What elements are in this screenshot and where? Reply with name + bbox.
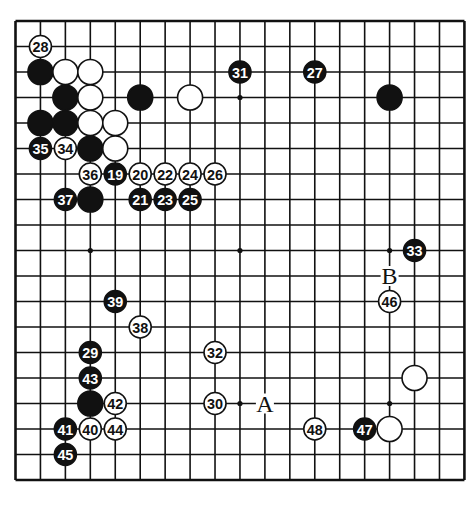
star-point [237,95,242,100]
star-point [387,401,392,406]
stone-number: 34 [57,140,74,157]
stone-circle [178,85,203,110]
black-stone-47: 47 [354,418,376,440]
black-stone-29: 29 [79,342,101,364]
stone-number: 22 [157,166,173,183]
stone-circle [53,85,78,110]
stone-number: 38 [132,319,148,336]
stone-number: 43 [82,370,98,387]
stone-number: 20 [132,166,148,183]
stone-number: 33 [407,242,423,259]
black-stone-39: 39 [104,291,126,313]
stone-circle [28,60,53,85]
marker-a: A [256,391,274,417]
black-stone-27: 27 [304,61,326,83]
black-stone [128,85,153,110]
stone-circle [78,391,103,416]
white-stone-44: 44 [104,418,126,440]
black-stone [53,85,78,110]
stone-number: 37 [57,191,73,208]
black-stone [377,85,402,110]
black-stone-31: 31 [229,61,251,83]
stone-circle [78,111,103,136]
stone-number: 27 [307,64,323,81]
stone-circle [377,85,402,110]
black-stone-35: 35 [29,138,51,160]
stone-number: 40 [82,421,98,438]
black-stone [78,391,103,416]
stone-number: 29 [82,344,98,361]
black-stone-25: 25 [179,189,201,211]
white-stone [103,136,128,161]
white-stone [53,60,78,85]
white-stone-48: 48 [304,418,326,440]
stone-circle [53,60,78,85]
stone-number: 39 [107,293,123,310]
white-stone-22: 22 [154,163,176,185]
star-point [88,248,93,253]
go-board-diagram: AB 2831273534361920222426372123253346393… [0,0,476,509]
black-stone [28,60,53,85]
black-stone-37: 37 [54,189,76,211]
stone-circle [377,417,402,442]
white-stone [78,111,103,136]
stone-number: 31 [232,64,248,81]
stone-number: 25 [182,191,198,208]
stone-number: 23 [157,191,173,208]
white-stone-36: 36 [79,163,101,185]
stone-circle [78,60,103,85]
white-stone [402,366,427,391]
stone-circle [402,366,427,391]
marker-label: A [256,391,274,417]
stone-number: 19 [107,166,123,183]
stone-number: 21 [132,191,148,208]
stone-circle [78,187,103,212]
stone-circle [128,85,153,110]
stone-number: 24 [182,166,199,183]
star-point [237,248,242,253]
white-stone-28: 28 [29,36,51,58]
white-stone-20: 20 [129,163,151,185]
stone-circle [53,111,78,136]
black-stone-21: 21 [129,189,151,211]
black-stone [28,111,53,136]
stone-number: 47 [357,421,373,438]
stone-circle [78,136,103,161]
go-board: AB 2831273534361920222426372123253346393… [0,0,476,509]
white-stone-42: 42 [104,393,126,415]
stone-circle [103,136,128,161]
white-stone-34: 34 [54,138,76,160]
stone-number: 42 [107,395,123,412]
white-stone [178,85,203,110]
black-stone-19: 19 [104,163,126,185]
white-stone-24: 24 [179,163,201,185]
stone-number: 30 [207,395,223,412]
star-point [387,248,392,253]
stone-number: 46 [382,293,398,310]
stone-number: 28 [32,38,48,55]
black-stone [78,187,103,212]
black-stone [78,136,103,161]
stone-number: 32 [207,344,223,361]
black-stone-43: 43 [79,367,101,389]
black-stone-23: 23 [154,189,176,211]
white-stone [78,85,103,110]
stone-number: 45 [57,446,73,463]
stone-number: 41 [57,421,73,438]
white-stone-38: 38 [129,316,151,338]
stone-number: 44 [107,421,124,438]
marker-b: B [381,263,399,289]
stone-circle [103,111,128,136]
white-stone-46: 46 [379,291,401,313]
stone-circle [28,111,53,136]
black-stone-45: 45 [54,444,76,466]
stone-circle [78,85,103,110]
marker-label: B [382,263,398,289]
white-stone-32: 32 [204,342,226,364]
white-stone [78,60,103,85]
white-stone-40: 40 [79,418,101,440]
stone-number: 48 [307,421,323,438]
white-stone-30: 30 [204,393,226,415]
white-stone-26: 26 [204,163,226,185]
stone-number: 35 [32,140,48,157]
